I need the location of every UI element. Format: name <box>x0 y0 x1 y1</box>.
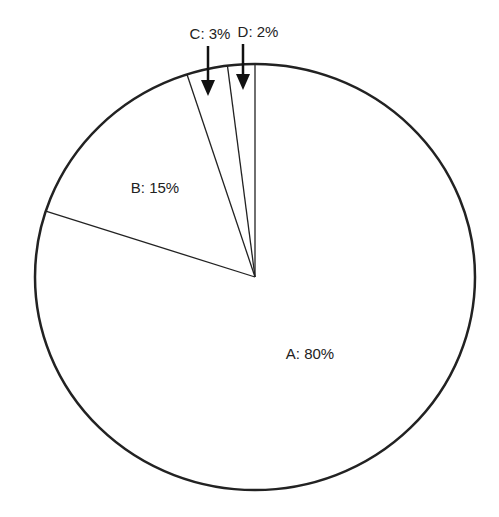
slice-label-a: A: 80% <box>286 345 334 362</box>
slice-label-c: C: 3% <box>190 25 231 42</box>
slice-label-d: D: 2% <box>238 23 279 40</box>
slice-label-b: B: 15% <box>131 179 179 196</box>
pie-chart: A: 80%B: 15%C: 3%D: 2% <box>0 0 499 517</box>
